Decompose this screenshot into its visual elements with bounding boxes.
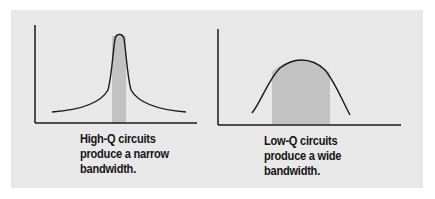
caption-line: bandwidth. bbox=[80, 161, 169, 176]
caption-line: Low-Q circuits bbox=[264, 133, 341, 148]
high-q-diagram bbox=[35, 25, 197, 123]
wide-bandwidth-region bbox=[272, 60, 330, 124]
caption-line: bandwidth. bbox=[264, 163, 341, 178]
low-q-diagram bbox=[218, 29, 401, 125]
resonance-curves-diagram bbox=[0, 0, 435, 199]
high-q-caption: High-Q circuits produce a narrow bandwid… bbox=[80, 131, 169, 176]
low-q-caption: Low-Q circuits produce a wide bandwidth. bbox=[264, 133, 341, 178]
caption-line: High-Q circuits bbox=[80, 131, 169, 146]
caption-line: produce a narrow bbox=[80, 146, 169, 161]
caption-line: produce a wide bbox=[264, 148, 341, 163]
